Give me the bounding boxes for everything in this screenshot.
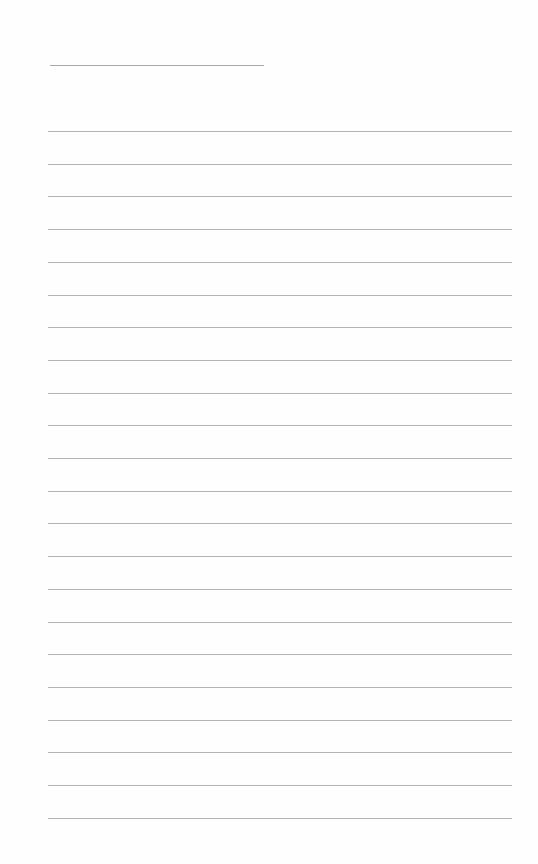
ruled-line — [48, 458, 512, 459]
ruled-line — [48, 622, 512, 623]
ruled-line — [48, 164, 512, 165]
ruled-line — [48, 393, 512, 394]
ruled-line — [48, 131, 512, 132]
ruled-line — [48, 785, 512, 786]
ruled-line — [48, 556, 512, 557]
lined-paper-page — [0, 0, 538, 864]
ruled-line — [48, 589, 512, 590]
ruled-line — [48, 360, 512, 361]
ruled-line — [48, 491, 512, 492]
ruled-line — [48, 523, 512, 524]
title-line — [50, 65, 264, 66]
ruled-line — [48, 818, 512, 819]
ruled-line — [48, 752, 512, 753]
ruled-line — [48, 425, 512, 426]
ruled-line — [48, 654, 512, 655]
ruled-line — [48, 262, 512, 263]
ruled-line — [48, 229, 512, 230]
ruled-line — [48, 720, 512, 721]
ruled-line — [48, 295, 512, 296]
ruled-line — [48, 327, 512, 328]
ruled-line — [48, 196, 512, 197]
ruled-line — [48, 687, 512, 688]
